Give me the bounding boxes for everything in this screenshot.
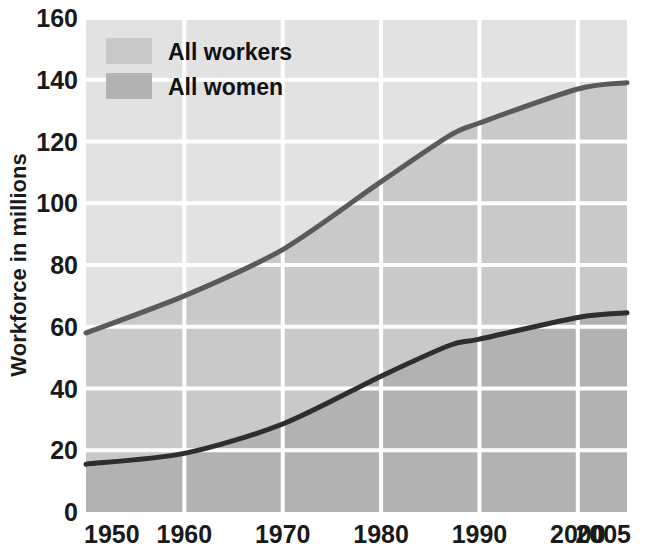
x-tick-1990: 1990 [452,520,508,548]
workforce-area-chart: 020406080100120140160 195019601970198019… [0,0,648,551]
legend-label-all-workers: All workers [168,39,292,65]
chart-container: 020406080100120140160 195019601970198019… [0,0,648,551]
y-axis-title: Workforce in millions [6,153,31,376]
x-tick-1980: 1980 [353,520,409,548]
y-tick-0: 0 [64,498,78,526]
y-tick-20: 20 [50,436,78,464]
y-tick-60: 60 [50,313,78,341]
legend-swatch-all-workers [106,38,152,64]
x-tick-2005: 2005 [575,520,631,548]
x-tick-1960: 1960 [157,520,213,548]
x-tick-1970: 1970 [255,520,311,548]
x-tick-1950: 1950 [84,520,140,548]
legend-label-all-women: All women [168,74,283,100]
y-tick-120: 120 [36,128,78,156]
y-tick-80: 80 [50,251,78,279]
y-tick-100: 100 [36,189,78,217]
x-axis-tick-labels: 1950196019701980199020002005 [84,520,631,548]
y-tick-160: 160 [36,4,78,32]
y-tick-140: 140 [36,66,78,94]
y-tick-40: 40 [50,375,78,403]
legend-swatch-all-women [106,73,152,99]
